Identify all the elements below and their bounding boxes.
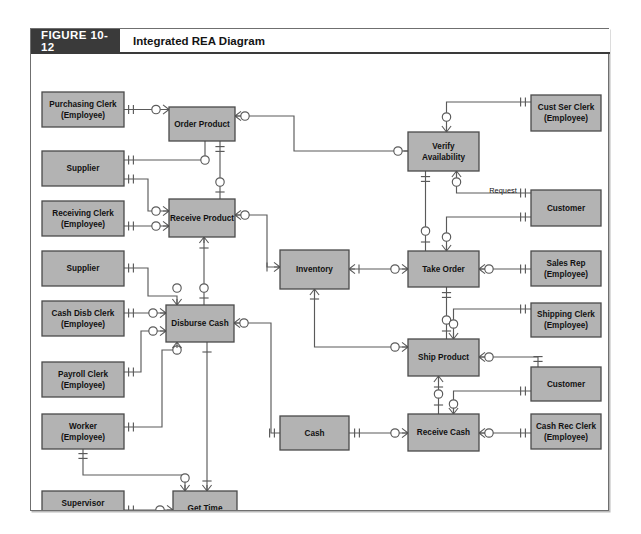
crows-foot-symbol [234,318,240,327]
optional-circle-symbol [149,327,157,335]
entity-label-take-order: Take Order [422,265,465,274]
entity-label-receive-product: Receive Product [170,214,234,223]
entity-box-cash-rec-clerk[interactable] [531,414,601,449]
crows-foot-symbol [199,237,208,243]
optional-circle-symbol [201,156,209,164]
optional-circle-symbol [241,112,249,120]
entity-verify-availability[interactable]: VerifyAvailability [408,132,479,171]
entity-box-purchasing-clerk[interactable] [42,92,124,127]
connector-disburse-cash-cash [234,323,280,433]
crows-foot-symbol [434,376,443,382]
annotation-layer: Request [489,186,517,195]
entity-receive-product[interactable]: Receive Product [169,199,235,237]
optional-circle-symbol [241,211,249,219]
entity-sublabel-purchasing-clerk: (Employee) [61,111,105,120]
entity-box-cust-ser-clerk[interactable] [531,95,601,131]
connector-inventory-ship-product [315,289,409,347]
entity-label-purchasing-clerk: Purchasing Clerk [49,100,117,109]
crows-foot-symbol [160,308,166,317]
optional-circle-symbol [391,429,399,437]
crows-foot-symbol [163,221,169,230]
entity-shipping-clerk[interactable]: Shipping Clerk(Employee) [531,303,601,337]
crows-foot-symbol [402,264,408,273]
optional-circle-symbol [391,265,399,273]
entity-label-disburse-cash: Disburse Cash [171,319,228,328]
entity-label-cust-ser-clerk: Cust Ser Clerk [538,103,595,112]
entity-supplier-1[interactable]: Supplier [42,151,124,186]
crows-foot-symbol [442,126,451,132]
entity-sublabel-cash-disb-clerk: (Employee) [61,320,105,329]
crows-foot-symbol [402,342,408,351]
entity-customer-2[interactable]: Customer [531,367,601,401]
optional-circle-symbol [391,343,399,351]
entity-receive-cash[interactable]: Receive Cash [408,414,479,451]
entity-label-order-product: Order Product [174,120,230,129]
entity-customer-1[interactable]: Customer [531,190,601,226]
optional-circle-symbol [394,147,402,155]
entity-inventory[interactable]: Inventory [280,250,349,289]
entity-box-verify-availability[interactable] [408,132,479,171]
crows-foot-symbol [479,428,485,437]
entity-sublabel-verify-availability: Availability [422,153,465,162]
connector-customer2-receive-cash [454,391,532,414]
entity-label-cash: Cash [304,429,324,438]
entity-order-product[interactable]: Order Product [169,107,235,141]
entity-label-receive-cash: Receive Cash [417,428,470,437]
optional-circle-symbol [240,319,248,327]
entity-sales-rep[interactable]: Sales Rep(Employee) [531,251,601,286]
entity-sublabel-cash-rec-clerk: (Employee) [544,433,588,442]
entity-box-worker[interactable] [42,414,124,449]
entity-ship-product[interactable]: Ship Product [408,339,479,376]
entity-supervisor[interactable]: Supervisor(Employee) [42,491,124,510]
crows-foot-symbol [163,105,169,114]
entity-cust-ser-clerk[interactable]: Cust Ser Clerk(Employee) [531,95,601,131]
entity-box-sales-rep[interactable] [531,251,601,286]
rea-diagram-svg: Purchasing Clerk(Employee)SupplierReceiv… [31,54,610,510]
rea-diagram-canvas: Purchasing Clerk(Employee)SupplierReceiv… [31,54,610,510]
annotation-request-label: Request [489,186,517,195]
crows-foot-symbol [449,333,458,339]
optional-circle-symbol [181,474,189,482]
optional-circle-symbol [442,113,450,121]
entity-worker[interactable]: Worker(Employee) [42,414,124,449]
optional-circle-symbol [442,233,450,241]
entity-sublabel-sales-rep: (Employee) [544,270,588,279]
connector-shipping-clerk-ship-product [454,309,532,339]
optional-circle-symbol [449,320,457,328]
entity-box-shipping-clerk[interactable] [531,303,601,337]
entity-get-time[interactable]: Get Time [173,491,237,510]
entity-purchasing-clerk[interactable]: Purchasing Clerk(Employee) [42,92,124,127]
entity-label-customer-2: Customer [547,380,586,389]
entity-disburse-cash[interactable]: Disburse Cash [166,305,234,342]
crows-foot-symbol [310,289,319,295]
entity-sublabel-worker: (Employee) [61,433,105,442]
connector-order-product-verify-availability [235,116,408,151]
optional-circle-symbol [485,353,493,361]
optional-circle-symbol [152,105,160,113]
entity-payroll-clerk[interactable]: Payroll Clerk(Employee) [42,362,124,397]
entity-receiving-clerk[interactable]: Receiving Clerk(Employee) [42,201,124,236]
optional-circle-symbol [152,222,160,230]
entity-label-inventory: Inventory [296,265,333,274]
entity-box-receiving-clerk[interactable] [42,201,124,236]
entity-cash-rec-clerk[interactable]: Cash Rec Clerk(Employee) [531,414,601,449]
optional-circle-symbol [152,207,160,215]
entity-label-sales-rep: Sales Rep [546,259,585,268]
optional-circle-symbol [452,178,460,186]
entity-cash-disb-clerk[interactable]: Cash Disb Clerk(Employee) [42,301,124,336]
connector-customer1-take-order [447,217,532,251]
crows-foot-symbol [274,262,280,271]
crows-foot-symbol [452,171,461,177]
crows-foot-symbol [172,342,181,348]
connector-cust-ser-clerk-verify-availability [447,102,532,132]
entity-box-payroll-clerk[interactable] [42,362,124,397]
entity-cash[interactable]: Cash [280,416,349,450]
entity-supplier-2[interactable]: Supplier [42,251,124,286]
entity-take-order[interactable]: Take Order [408,251,479,287]
entity-label-cash-rec-clerk: Cash Rec Clerk [536,422,597,431]
entity-box-cash-disb-clerk[interactable] [42,301,124,336]
optional-circle-symbol [485,429,493,437]
optional-circle-symbol [421,227,429,235]
entity-sublabel-payroll-clerk: (Employee) [61,381,105,390]
crows-foot-symbol [479,352,485,361]
